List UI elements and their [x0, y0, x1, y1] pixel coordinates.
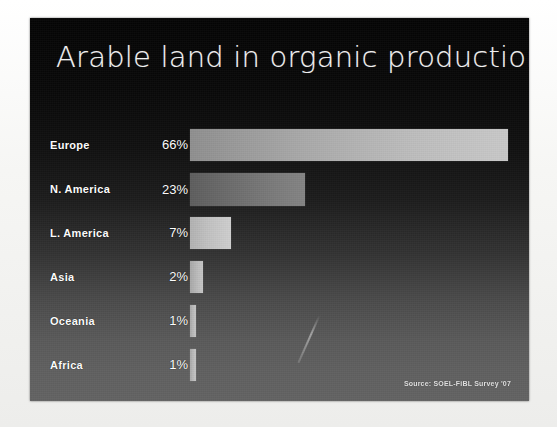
- chart-row: Oceania1%: [30, 305, 529, 337]
- bar-chart: Europe66%N. America23%L. America7%Asia2%…: [30, 18, 529, 401]
- bar: [190, 261, 203, 293]
- chart-row: L. America7%: [30, 217, 529, 249]
- value-label: 2%: [148, 261, 188, 293]
- category-label: L. America: [50, 217, 160, 249]
- category-label: N. America: [50, 173, 160, 206]
- value-label: 1%: [148, 349, 188, 381]
- value-label: 66%: [148, 129, 188, 161]
- source-credit: Source: SOEL-FiBL Survey '07: [404, 380, 511, 387]
- category-label: Oceania: [50, 305, 160, 337]
- bar: [190, 305, 196, 337]
- chart-row: N. America23%: [30, 173, 529, 206]
- chart-row: Africa1%: [30, 349, 529, 381]
- bar: [190, 217, 231, 249]
- bar: [190, 129, 508, 161]
- category-label: Europe: [50, 129, 160, 161]
- category-label: Africa: [50, 349, 160, 381]
- value-label: 1%: [148, 305, 188, 337]
- chart-row: Asia2%: [30, 261, 529, 293]
- presentation-slide: Arable land in organic production Europe…: [30, 18, 529, 401]
- value-label: 7%: [148, 217, 188, 249]
- photo-frame: Arable land in organic production Europe…: [0, 0, 557, 427]
- bar: [190, 173, 305, 206]
- category-label: Asia: [50, 261, 160, 293]
- value-label: 23%: [148, 173, 188, 206]
- bar: [190, 349, 196, 381]
- chart-row: Europe66%: [30, 129, 529, 161]
